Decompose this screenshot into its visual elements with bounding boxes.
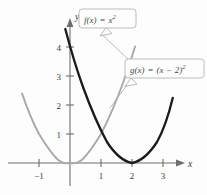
callout-f[interactable]: f(x)=x2	[79, 9, 136, 62]
y-axis-arrowhead	[67, 18, 74, 27]
x-axis-label: x	[187, 159, 193, 169]
x-tick-label-3: 3	[161, 171, 166, 181]
curve-f-x-squared	[22, 47, 135, 164]
callout-g-leader-line	[110, 85, 127, 108]
x-tick-labels: −1 1 2 3	[34, 171, 166, 181]
callout-g-equals: =	[148, 65, 154, 75]
callout-f-equals: =	[100, 15, 106, 25]
y-tick-labels: 1 2 3 4	[57, 43, 62, 140]
callout-g-close: )	[141, 65, 145, 75]
figure-parabola-translation: −1 1 2 3 1 2 3 4 x y f(x)=x2	[0, 0, 207, 195]
callout-g-minus: −	[166, 65, 172, 75]
callout-f-label: f(x)=x2	[84, 13, 117, 25]
x-axis-arrowhead	[176, 160, 185, 167]
chart-canvas: −1 1 2 3 1 2 3 4 x y f(x)=x2	[0, 0, 207, 195]
callout-g-expr-var: x	[159, 65, 164, 75]
y-tick-label-2: 2	[57, 101, 62, 111]
callout-g-label: g(x)=(x−2)2	[130, 63, 186, 75]
callout-f-leader-line	[102, 35, 131, 63]
y-tick-label-4: 4	[57, 43, 62, 53]
axes-group	[8, 18, 185, 186]
callout-f-close: )	[93, 15, 97, 25]
callout-g[interactable]: g(x)=(x−2)2	[110, 59, 204, 108]
x-tick-label--1: −1	[34, 171, 44, 181]
x-tick-label-2: 2	[130, 171, 135, 181]
y-tick-label-3: 3	[57, 72, 62, 82]
x-tick-label-1: 1	[99, 171, 104, 181]
y-tick-label-1: 1	[57, 130, 62, 140]
